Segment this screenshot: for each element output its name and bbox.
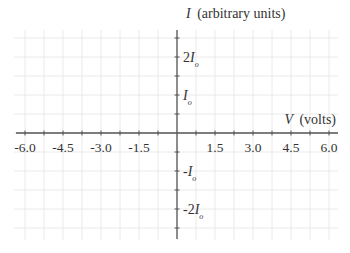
- x-tick-label: 4.5: [283, 140, 300, 155]
- x-tick-label: -6.0: [14, 140, 36, 155]
- iv-chart: -6.0-4.5-3.0-1.51.53.04.56.0 2IoIo-Io-2I…: [0, 0, 350, 253]
- x-axis-unit: (volts): [299, 112, 336, 128]
- y-tick-label: Io: [182, 88, 192, 107]
- axes: [16, 30, 338, 239]
- y-axis-title: I (arbitrary units): [185, 6, 286, 22]
- y-axis-var: I: [185, 6, 192, 21]
- x-tick-label: 1.5: [207, 140, 224, 155]
- x-tick-label: 6.0: [321, 140, 338, 155]
- y-tick-label: -Io: [183, 164, 196, 183]
- x-tick-label: -3.0: [90, 140, 112, 155]
- x-axis-title: V (volts): [284, 112, 336, 128]
- y-tick-label: -2Io: [183, 202, 203, 221]
- x-tick-labels: -6.0-4.5-3.0-1.51.53.04.56.0: [14, 140, 337, 155]
- y-axis-unit: (arbitrary units): [197, 6, 286, 22]
- x-axis-var: V: [284, 112, 294, 127]
- x-tick-label: 3.0: [245, 140, 262, 155]
- x-tick-label: -1.5: [128, 140, 150, 155]
- x-tick-label: -4.5: [52, 140, 74, 155]
